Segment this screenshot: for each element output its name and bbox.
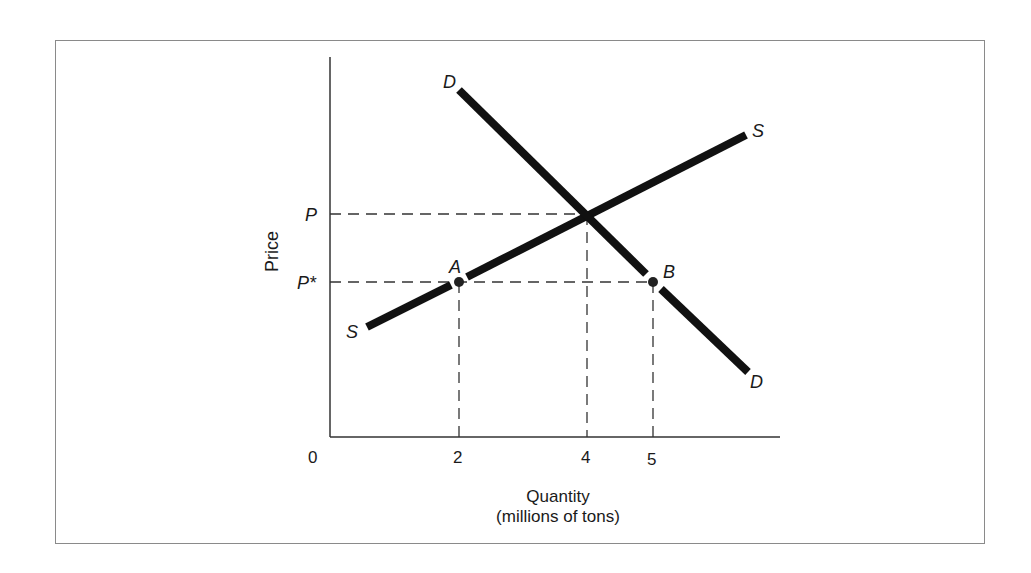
x-tick-5: 5 bbox=[647, 450, 656, 469]
x-tick-4: 4 bbox=[581, 448, 590, 467]
point-a-label: A bbox=[448, 257, 461, 277]
demand-label-bottom: D bbox=[750, 372, 763, 392]
supply-curve-lower bbox=[367, 285, 451, 327]
demand-label-top: D bbox=[443, 72, 456, 92]
y-tick-p: P bbox=[305, 205, 317, 225]
y-tick-pstar: P* bbox=[297, 273, 317, 293]
point-b-marker bbox=[648, 277, 658, 287]
x-axis-sublabel: (millions of tons) bbox=[496, 507, 620, 526]
point-a-marker bbox=[454, 277, 464, 287]
x-tick-2: 2 bbox=[453, 448, 462, 467]
demand-curve-upper bbox=[459, 90, 646, 274]
supply-label-top: S bbox=[752, 121, 764, 141]
x-axis-label: Quantity bbox=[526, 487, 590, 506]
origin-label: 0 bbox=[308, 448, 317, 467]
y-axis-label: Price bbox=[262, 231, 282, 272]
demand-curve-lower bbox=[661, 289, 748, 372]
supply-demand-chart: D D S S A B P P* Price 0 2 4 5 Quantity … bbox=[0, 0, 1031, 573]
supply-label-bottom: S bbox=[346, 322, 358, 342]
point-b-label: B bbox=[663, 262, 675, 282]
supply-curve-upper bbox=[467, 135, 746, 277]
